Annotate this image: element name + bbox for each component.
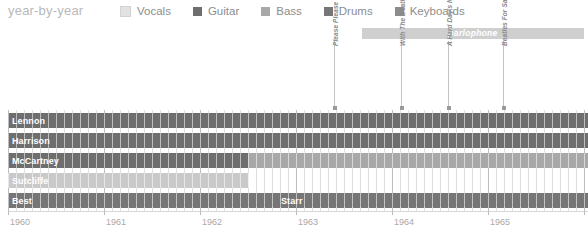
bar-gridline — [408, 153, 409, 168]
axis-year-label: 1963 — [298, 217, 318, 227]
bar-gridline — [160, 173, 161, 188]
bar-gridline — [352, 153, 353, 168]
bar-gridline — [416, 193, 417, 208]
bar-gridline — [216, 173, 217, 188]
release-marker-label: A Hard Day's Night — [446, 0, 453, 46]
bar-gridline — [96, 153, 97, 168]
bar-gridline — [536, 113, 537, 128]
bar-gridline — [576, 153, 577, 168]
bar-gridline — [520, 153, 521, 168]
member-row-label: Lennon — [12, 117, 45, 126]
bar-gridline — [112, 133, 113, 148]
legend-item-guitar[interactable]: Guitar — [193, 3, 239, 19]
legend-item-vocals[interactable]: Vocals — [120, 3, 171, 19]
bar-gridline — [456, 153, 457, 168]
bar-gridline — [368, 113, 369, 128]
axis-tick-minor — [216, 207, 217, 211]
axis-tick-minor — [136, 207, 137, 211]
bar-gridline — [168, 153, 169, 168]
bar-gridline — [472, 113, 473, 128]
bar-gridline — [448, 113, 449, 128]
bar-gridline — [560, 153, 561, 168]
bar-gridline — [232, 133, 233, 148]
bar-gridline — [472, 153, 473, 168]
bar-gridline — [568, 133, 569, 148]
bar-gridline — [576, 193, 577, 208]
bar-gridline — [440, 113, 441, 128]
bar-gridline — [368, 193, 369, 208]
bar-gridline — [64, 173, 65, 188]
record-label-band: parlophone — [362, 28, 584, 39]
bar-gridline — [488, 113, 489, 128]
axis-tick-minor — [472, 207, 473, 211]
axis-year-label: 1964 — [394, 217, 414, 227]
bar-gridline — [144, 173, 145, 188]
axis-tick-minor — [264, 207, 265, 211]
member-row-lennon[interactable]: Lennon — [0, 113, 588, 128]
bar-gridline — [280, 153, 281, 168]
bar-gridline — [136, 173, 137, 188]
member-row-mccartney[interactable]: McCartney — [0, 153, 588, 168]
axis-tick-minor — [512, 207, 513, 211]
bar-gridline — [304, 193, 305, 208]
release-marker-label: Please Please Me — [332, 0, 339, 46]
bar-gridline — [544, 193, 545, 208]
axis-tick-major — [8, 207, 9, 215]
bar-gridline — [392, 113, 393, 128]
role-segment[interactable] — [8, 133, 588, 148]
bar-gridline — [320, 133, 321, 148]
axis-tick-minor — [96, 207, 97, 211]
axis-tick-major — [200, 207, 201, 215]
member-row-starr[interactable]: Starr — [0, 193, 588, 208]
bar-gridline — [80, 173, 81, 188]
bar-gridline — [184, 113, 185, 128]
bar-gridline — [184, 153, 185, 168]
bar-gridline — [360, 193, 361, 208]
bar-gridline — [104, 153, 105, 168]
bar-gridline — [392, 133, 393, 148]
bar-gridline — [248, 133, 249, 148]
member-row-sutcliffe[interactable]: Sutcliffe — [0, 173, 588, 188]
bar-gridline — [296, 153, 297, 168]
role-segment[interactable] — [8, 113, 588, 128]
bar-gridline — [8, 173, 9, 188]
bar-gridline — [80, 133, 81, 148]
axis-tick-minor — [256, 207, 257, 211]
bar-gridline — [288, 153, 289, 168]
bar-gridline — [432, 153, 433, 168]
bar-gridline — [456, 193, 457, 208]
bar-gridline — [552, 193, 553, 208]
bar-gridline — [480, 133, 481, 148]
bar-gridline — [552, 133, 553, 148]
axis-tick-minor — [56, 207, 57, 211]
role-segment[interactable] — [277, 193, 588, 208]
bar-gridline — [528, 193, 529, 208]
bar-gridline — [376, 193, 377, 208]
axis-tick-minor — [536, 207, 537, 211]
bar-gridline — [496, 133, 497, 148]
bar-gridline — [176, 113, 177, 128]
axis-tick-minor — [456, 207, 457, 211]
bar-gridline — [536, 133, 537, 148]
bar-gridline — [544, 153, 545, 168]
bar-gridline — [328, 193, 329, 208]
bar-gridline — [496, 193, 497, 208]
bar-gridline — [72, 153, 73, 168]
axis-tick-minor — [448, 207, 449, 211]
bar-gridline — [312, 153, 313, 168]
axis-tick-major — [392, 207, 393, 215]
axis-tick-minor — [568, 207, 569, 211]
bar-gridline — [264, 153, 265, 168]
role-segment[interactable] — [248, 153, 588, 168]
bar-gridline — [120, 133, 121, 148]
bar-gridline — [8, 133, 9, 148]
bar-gridline — [488, 153, 489, 168]
bar-gridline — [152, 153, 153, 168]
bar-gridline — [152, 133, 153, 148]
bar-gridline — [416, 153, 417, 168]
member-row-harrison[interactable]: Harrison — [0, 133, 588, 148]
bar-gridline — [440, 153, 441, 168]
bar-gridline — [352, 133, 353, 148]
legend-item-bass[interactable]: Bass — [261, 3, 302, 19]
bar-gridline — [528, 133, 529, 148]
